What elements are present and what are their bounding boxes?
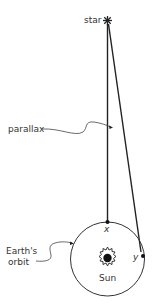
point-x-label: x: [103, 224, 110, 234]
diagram-canvas: star parallax x y Earth's orbit Sun: [0, 0, 157, 305]
point-y-label: y: [132, 252, 139, 262]
parallax-label: parallax: [8, 124, 45, 134]
parallax-diagram: star parallax x y Earth's orbit Sun: [0, 0, 157, 305]
orbit-leader: [36, 242, 72, 261]
parallax-arrowhead: [109, 126, 113, 130]
sun-label: Sun: [99, 273, 116, 283]
parallax-leader: [42, 122, 111, 134]
sun-icon: [99, 247, 116, 266]
point-y-marker: [141, 254, 145, 258]
star-icon: [103, 16, 112, 25]
sightline-y: [109, 24, 142, 252]
orbit-label-line2: orbit: [8, 257, 29, 267]
orbit-label-line1: Earth's: [6, 246, 38, 256]
star-label: star: [84, 15, 102, 25]
